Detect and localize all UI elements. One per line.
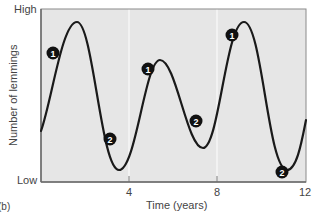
- marker-1-second: 1: [142, 63, 155, 76]
- plot-area: 1 1 1 2 2 2: [0, 0, 313, 212]
- x-axis-title: Time (years): [146, 199, 207, 211]
- marker-2-second: 2: [190, 115, 203, 128]
- svg-text:1: 1: [145, 65, 150, 75]
- plot-background: [41, 9, 306, 182]
- x-tick-label-8: 8: [214, 186, 220, 198]
- x-tick-label-4: 4: [126, 186, 132, 198]
- svg-text:1: 1: [229, 31, 234, 41]
- marker-1-first: 1: [47, 47, 60, 60]
- svg-text:2: 2: [279, 168, 284, 178]
- marker-1-third: 1: [226, 29, 239, 42]
- marker-2-third: 2: [276, 166, 289, 179]
- marker-2-first: 2: [104, 133, 117, 146]
- svg-text:1: 1: [50, 49, 55, 59]
- svg-text:2: 2: [107, 135, 112, 145]
- svg-text:2: 2: [193, 117, 198, 127]
- x-tick-label-12: 12: [299, 186, 311, 198]
- panel-label: (b): [0, 201, 10, 212]
